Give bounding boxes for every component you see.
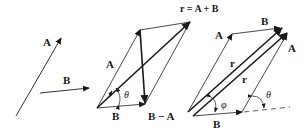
vector-diagram-figure: A B r = A + B A B B − A θ — [0, 0, 308, 132]
vector-a-top-label: A — [215, 29, 223, 41]
vector-a-label: A — [106, 58, 114, 70]
vector-b-top-arrow — [232, 28, 280, 34]
difference-label: B − A — [148, 110, 174, 122]
panel-right: A B A r r φ θ B — [188, 15, 296, 130]
vector-a-right-arrow — [242, 34, 287, 112]
vector-a-arrow — [97, 30, 140, 108]
resultant-r2-label: r — [242, 73, 247, 85]
angle-phi-label: φ — [221, 99, 227, 110]
vector-a-shifted-edge — [145, 22, 190, 104]
vector-b-arrow — [40, 88, 89, 93]
vector-b-bottom-label: B — [213, 118, 221, 130]
vector-b-bottom-arrow — [193, 112, 242, 116]
vector-b-top-label: B — [261, 15, 269, 27]
resultant-label: r = A + B — [180, 3, 219, 14]
angle-theta-label: θ — [124, 89, 129, 100]
resultant-r2-arrow — [193, 33, 287, 116]
vector-b-arrow — [97, 104, 145, 108]
vector-a-right-label: A — [288, 42, 296, 54]
vector-a-arrow — [16, 38, 61, 116]
resultant-r1-label: r — [230, 57, 235, 69]
panel-left: A B — [16, 36, 89, 116]
b-extension-dashed-line — [244, 107, 290, 112]
vector-a-label: A — [43, 36, 51, 48]
panel-middle: r = A + B A B B − A θ — [97, 3, 219, 122]
angle-theta-label: θ — [266, 89, 271, 100]
vector-b-label: B — [63, 74, 71, 86]
angle-theta-arc — [252, 96, 264, 108]
vector-b-label: B — [112, 110, 120, 122]
